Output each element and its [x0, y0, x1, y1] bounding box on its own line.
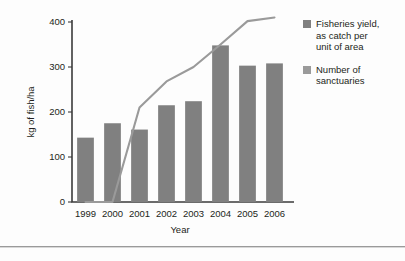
footer-divider-shadow	[0, 247, 405, 248]
x-tick-label: 2002	[156, 208, 177, 219]
bar	[77, 138, 94, 202]
legend-label-number-of-sanctuaries: Number of sanctuaries	[316, 64, 365, 87]
x-tick-label: 2003	[183, 208, 204, 219]
x-axis-title: Year	[170, 224, 189, 235]
bar	[158, 105, 175, 202]
bar	[104, 123, 121, 202]
bars-group	[77, 45, 283, 202]
bar	[266, 63, 283, 202]
legend-entry-fisheries-yield: Fisheries yield, as catch per unit of ar…	[303, 18, 403, 53]
x-tick-label: 2001	[129, 208, 150, 219]
x-tick-label: 2004	[210, 208, 231, 219]
x-tick-label: 1999	[75, 208, 96, 219]
bar	[131, 130, 148, 202]
bar	[239, 66, 256, 202]
legend-entry-number-of-sanctuaries: Number of sanctuaries	[303, 64, 403, 87]
y-axis-title: kg of fish/ha	[25, 86, 36, 138]
y-tick-label: 200	[49, 106, 65, 117]
legend-label-fisheries-yield: Fisheries yield, as catch per unit of ar…	[316, 18, 379, 53]
chart-svg: 0100200300400199920002001200220032004200…	[0, 0, 300, 240]
y-tick-label: 100	[49, 151, 65, 162]
legend-swatch-fisheries-yield	[303, 20, 311, 28]
x-tick-label: 2000	[102, 208, 123, 219]
axis-group	[68, 20, 294, 202]
x-tick-label: 2006	[264, 208, 285, 219]
y-tick-label: 400	[49, 16, 65, 27]
x-tick-label: 2005	[237, 208, 258, 219]
legend-swatch-number-of-sanctuaries	[303, 66, 311, 74]
y-tick-label: 300	[49, 61, 65, 72]
plot-area: 0100200300400199920002001200220032004200…	[0, 0, 300, 240]
chart-legend: Fisheries yield, as catch per unit of ar…	[303, 18, 403, 98]
figure-panel: 0100200300400199920002001200220032004200…	[0, 0, 405, 261]
bar	[185, 101, 202, 202]
bar	[212, 45, 229, 202]
y-tick-label: 0	[60, 196, 65, 207]
